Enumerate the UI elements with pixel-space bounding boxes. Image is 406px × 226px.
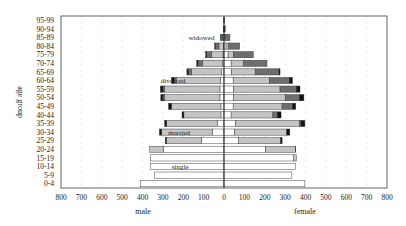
bar-male-married-70-74	[203, 60, 223, 66]
bar-male-married-20-24	[150, 146, 164, 152]
bar-female-single-75-79	[224, 52, 228, 58]
x-tick-label: 700	[76, 193, 88, 202]
bar-male-divorced-50-54	[161, 95, 163, 101]
bar-female-single-35-39	[224, 120, 236, 126]
bar-male-widowed-65-69	[188, 69, 191, 75]
bar-female-married-40-44	[231, 112, 273, 118]
bar-male-single-20-24	[163, 146, 224, 152]
bar-female-widowed-50-54	[286, 95, 300, 101]
bar-male-single-45-49	[221, 103, 224, 109]
bar-male-single-15-19	[151, 155, 224, 161]
bar-female-single-15-19	[224, 155, 293, 161]
bar-male-single-50-54	[220, 95, 224, 101]
x-tick-label: 300	[157, 193, 169, 202]
bar-male-single-30-34	[212, 129, 224, 135]
bar-female-married-25-29	[238, 138, 280, 144]
bar-male-single-60-64	[220, 77, 224, 83]
bar-female-married-35-39	[236, 120, 300, 126]
x-tick-label: 100	[239, 193, 251, 202]
bar-female-married-70-74	[231, 60, 243, 66]
y-tick-label: 45-49	[37, 102, 55, 111]
bar-female-divorced-25-29	[281, 138, 282, 144]
bar-male-single-5-9	[154, 172, 224, 178]
bar-male-widowed-70-74	[198, 60, 203, 66]
bar-male-divorced-80-84	[215, 43, 216, 49]
bar-female-single-65-69	[224, 69, 232, 75]
bar-female-widowed-45-49	[282, 103, 292, 109]
bar-male-divorced-75-79	[206, 52, 207, 58]
y-tick-label: 95-99	[37, 16, 55, 25]
y-tick-label: 75-79	[37, 50, 55, 59]
annotation-single: single	[172, 163, 189, 171]
bar-female-divorced-50-54	[299, 95, 303, 101]
x-tick-label: 200	[259, 193, 271, 202]
bar-male-widowed-75-79	[207, 52, 212, 58]
bar-female-divorced-55-59	[296, 86, 300, 92]
bar-female-single-5-9	[224, 172, 292, 178]
bar-female-widowed-35-39	[299, 120, 301, 126]
y-tick-label: 20-24	[37, 145, 55, 154]
bar-female-single-25-29	[224, 138, 238, 144]
x-tick-label: 600	[96, 193, 108, 202]
bar-female-single-45-49	[224, 103, 233, 109]
bar-female-divorced-30-34	[287, 129, 290, 135]
bar-male-divorced-65-69	[187, 69, 188, 75]
bar-male-single-0-4	[140, 181, 224, 187]
y-tick-label: 60-64	[37, 76, 55, 85]
y-tick-label: 30-34	[37, 128, 55, 137]
y-tick-label: 35-39	[37, 119, 55, 128]
bar-male-divorced-25-29	[165, 138, 166, 144]
x-tick-label: 800	[55, 193, 67, 202]
bar-male-widowed-80-84	[215, 43, 219, 49]
bar-female-single-20-24	[224, 146, 266, 152]
y-axis-label: age group	[16, 86, 25, 118]
x-tick-label: 200	[178, 193, 190, 202]
bar-female-married-55-59	[234, 86, 280, 92]
x-tick-label: 800	[381, 193, 393, 202]
y-tick-label: 15-19	[37, 154, 55, 163]
bar-male-divorced-35-39	[165, 120, 167, 126]
bar-female-married-65-69	[232, 69, 255, 75]
bar-female-widowed-55-59	[280, 86, 296, 92]
y-tick-label: 40-44	[37, 111, 55, 120]
bar-male-divorced-30-34	[159, 129, 161, 135]
bar-female-widowed-90-94	[224, 26, 225, 32]
bar-female-widowed-65-69	[255, 69, 279, 75]
bar-male-married-75-79	[212, 52, 223, 58]
y-tick-label: 85-89	[37, 33, 55, 42]
bar-female-divorced-45-49	[292, 103, 295, 109]
y-tick-label: 50-54	[37, 93, 55, 102]
x-axis-label-female: female	[294, 207, 316, 216]
x-tick-label: 300	[280, 193, 292, 202]
bar-female-widowed-75-79	[233, 52, 253, 58]
x-tick-label: 700	[361, 193, 373, 202]
bar-female-married-75-79	[228, 52, 233, 58]
y-tick-label: 65-69	[37, 68, 55, 77]
bar-male-married-65-69	[191, 69, 221, 75]
y-tick-label: 70-74	[37, 59, 55, 68]
bar-male-single-40-44	[221, 112, 224, 118]
y-axis-tick-labels: 0-45-910-1415-1920-2425-2930-3435-3940-4…	[37, 16, 55, 188]
x-tick-label: 0	[222, 193, 226, 202]
bar-female-married-30-34	[235, 129, 287, 135]
bars	[140, 17, 305, 187]
annotation-divorced: divorced	[161, 77, 186, 85]
x-tick-label: 500	[117, 193, 129, 202]
population-pyramid-chart: 0-45-910-1415-1920-2425-2930-3435-3940-4…	[0, 0, 406, 226]
annotation-widowed: widowed	[189, 34, 215, 42]
bar-male-married-50-54	[165, 95, 220, 101]
x-tick-label: 400	[300, 193, 312, 202]
bar-female-married-50-54	[234, 95, 286, 101]
bar-female-divorced-60-64	[289, 77, 292, 83]
bar-male-divorced-55-59	[160, 86, 162, 92]
bar-female-widowed-70-74	[244, 60, 267, 66]
bar-female-single-40-44	[224, 112, 231, 118]
annotation-married: married	[168, 129, 190, 137]
bar-male-married-55-59	[165, 86, 220, 92]
bar-male-single-55-59	[220, 86, 224, 92]
bar-female-widowed-60-64	[269, 77, 289, 83]
bar-female-divorced-35-39	[301, 120, 305, 126]
bar-male-married-45-49	[171, 103, 221, 109]
y-tick-label: 90-94	[37, 25, 55, 34]
x-axis-label-male: male	[135, 207, 151, 216]
